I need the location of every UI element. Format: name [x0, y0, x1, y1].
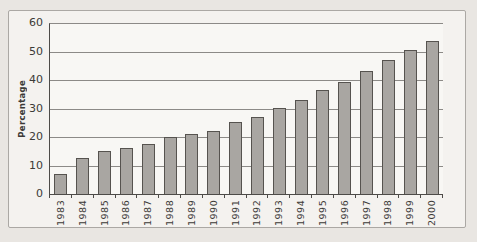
bar-1983 — [54, 174, 67, 195]
gridline-50 — [50, 52, 443, 53]
x-category-label-1990: 1990 — [207, 199, 219, 226]
bar-1993 — [273, 108, 286, 195]
bar-1988 — [164, 137, 177, 195]
y-tick-label-40: 40 — [19, 74, 43, 85]
x-tick-mark-15 — [377, 194, 378, 198]
bar-1991 — [229, 122, 242, 195]
bar-1994 — [295, 100, 308, 195]
x-tick-mark-14 — [355, 194, 356, 198]
y-tick-label-0: 0 — [19, 188, 43, 199]
x-tick-mark-11 — [289, 194, 290, 198]
x-category-label-1992: 1992 — [250, 199, 262, 226]
x-tick-mark-0 — [49, 194, 50, 198]
x-tick-mark-17 — [420, 194, 421, 198]
x-category-label-1995: 1995 — [316, 199, 328, 226]
x-tick-mark-5 — [158, 194, 159, 198]
y-tick-label-50: 50 — [19, 46, 43, 57]
y-tick-label-30: 30 — [19, 103, 43, 114]
bar-1992 — [251, 117, 264, 195]
bar-1996 — [338, 82, 351, 195]
bar-2000 — [426, 41, 439, 195]
y-tick-label-20: 20 — [19, 131, 43, 142]
x-category-label-1986: 1986 — [119, 199, 131, 226]
x-tick-mark-13 — [333, 194, 334, 198]
x-axis-line — [50, 194, 443, 195]
x-tick-mark-9 — [246, 194, 247, 198]
x-tick-mark-1 — [71, 194, 72, 198]
x-category-label-1999: 1999 — [403, 199, 415, 226]
x-category-label-1988: 1988 — [163, 199, 175, 226]
x-category-label-1997: 1997 — [360, 199, 372, 226]
x-tick-mark-4 — [136, 194, 137, 198]
bar-1997 — [360, 71, 373, 195]
x-category-label-1984: 1984 — [76, 199, 88, 226]
x-category-label-1994: 1994 — [294, 199, 306, 226]
scanned-page: { "frame": { "background": "#f4f2ef", "b… — [0, 0, 477, 242]
y-tick-label-60: 60 — [19, 17, 43, 28]
x-tick-mark-6 — [180, 194, 181, 198]
x-category-label-1989: 1989 — [185, 199, 197, 226]
x-category-label-1983: 1983 — [54, 199, 66, 226]
x-tick-mark-10 — [267, 194, 268, 198]
x-category-label-2000: 2000 — [425, 199, 437, 226]
x-tick-mark-16 — [398, 194, 399, 198]
bar-1989 — [185, 134, 198, 195]
x-category-label-1998: 1998 — [381, 199, 393, 226]
bar-1986 — [120, 148, 133, 195]
x-category-label-1985: 1985 — [98, 199, 110, 226]
x-tick-mark-2 — [93, 194, 94, 198]
y-tick-label-10: 10 — [19, 160, 43, 171]
bar-1984 — [76, 158, 89, 195]
chart-frame: Percentage 0102030405060 198319841985198… — [8, 10, 466, 228]
x-category-label-1993: 1993 — [272, 199, 284, 226]
bar-1999 — [404, 50, 417, 195]
bar-1985 — [98, 151, 111, 195]
x-category-label-1991: 1991 — [229, 199, 241, 226]
bar-1998 — [382, 60, 395, 195]
x-category-label-1987: 1987 — [141, 199, 153, 226]
x-tick-mark-7 — [202, 194, 203, 198]
x-tick-mark-18 — [442, 194, 443, 198]
x-category-label-1996: 1996 — [338, 199, 350, 226]
bar-1990 — [207, 131, 220, 195]
x-tick-mark-8 — [224, 194, 225, 198]
bar-1987 — [142, 144, 155, 195]
bar-1995 — [316, 90, 329, 195]
plot-area — [49, 23, 443, 195]
x-tick-mark-12 — [311, 194, 312, 198]
x-tick-mark-3 — [115, 194, 116, 198]
